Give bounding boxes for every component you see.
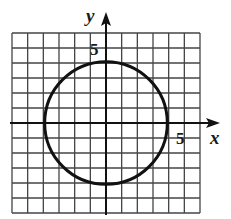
- x-axis: [10, 118, 220, 128]
- y-tick-label-5: 5: [90, 40, 99, 59]
- y-axis-label: y: [84, 5, 95, 26]
- coordinate-plane: y x 5 5: [0, 0, 231, 219]
- x-tick-label-5: 5: [176, 129, 185, 148]
- x-axis-label: x: [209, 127, 220, 148]
